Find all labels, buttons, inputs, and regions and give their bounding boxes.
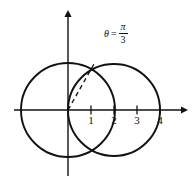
fraction-denominator: 3 [121,34,126,45]
equals-sign: = [110,29,119,39]
x-axis-arrowhead [181,106,188,113]
theta-angle-annotation: θ = π 3 [104,22,128,45]
x-tick-label-3: 3 [131,115,143,126]
pi-over-three-fraction: π 3 [119,22,128,45]
figure-canvas [0,0,192,187]
x-tick-label-1: 1 [85,115,97,126]
polar-circles-figure: 1 2 3 4 θ = π 3 [0,0,192,187]
x-tick-label-2: 2 [108,115,120,126]
x-tick-label-4: 4 [154,115,166,126]
fraction-numerator: π [119,22,128,33]
y-axis-arrowhead [64,10,71,17]
